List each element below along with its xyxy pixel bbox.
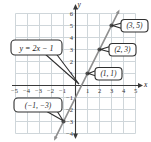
x-tick: −1: [59, 87, 66, 94]
y-tick: 2: [70, 58, 73, 65]
y-tick: 5: [70, 22, 73, 29]
line-arrowhead-bottom-icon: [54, 136, 58, 141]
x-axis-label: x: [143, 80, 148, 89]
x-axis-arrowhead-icon: [138, 83, 143, 88]
point-callout-1-1: (1, 1): [89, 68, 123, 81]
graph-canvas: x y −5 −4 −3 −2 −1 1 2 3 4 5 6 5 4 3 2 1…: [0, 0, 151, 142]
point-callout-neg1-neg3: (−1, −3): [14, 98, 63, 121]
x-tick: 2: [98, 87, 101, 94]
y-tick: −3: [66, 118, 73, 125]
y-tick: −4: [66, 130, 74, 137]
x-tick: 1: [86, 87, 89, 94]
x-tick: −2: [47, 87, 54, 94]
y-tick: 3: [70, 46, 73, 53]
x-tick: 5: [134, 87, 137, 94]
point-callout-3-5: (3, 5): [113, 20, 149, 33]
point-label: (−1, −3): [25, 101, 52, 110]
x-tick: −5: [11, 87, 18, 94]
point-label: (1, 1): [100, 69, 117, 78]
x-tick: 3: [110, 87, 113, 94]
point-label: (3, 5): [126, 21, 143, 30]
point-callout-2-3: (2, 3): [101, 44, 137, 57]
y-tick: −1: [66, 94, 73, 101]
y-axis-arrowhead-bottom-icon: [73, 134, 78, 140]
x-tick-labels: −5 −4 −3 −2 −1 1 2 3 4 5: [11, 87, 137, 94]
x-tick: −4: [23, 87, 31, 94]
graph-figure: x y −5 −4 −3 −2 −1 1 2 3 4 5 6 5 4 3 2 1…: [0, 0, 151, 142]
point-label: (2, 3): [114, 45, 131, 54]
x-tick: −3: [35, 87, 42, 94]
y-axis-label: y: [77, 0, 82, 9]
equation-callout-tail: [45, 54, 79, 85]
equation-label: y = 2x − 1: [19, 44, 54, 53]
x-tick: 4: [122, 87, 126, 94]
